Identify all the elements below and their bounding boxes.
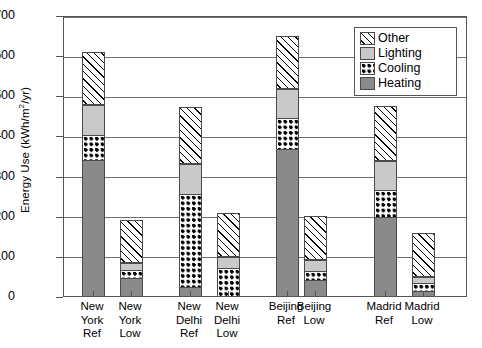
bar-segment-other	[179, 107, 202, 164]
legend-swatch-lighting	[360, 47, 375, 60]
bar-segment-heating	[374, 217, 397, 296]
x-axis-label-line: Low	[290, 314, 338, 328]
legend-label-cooling: Cooling	[378, 62, 420, 75]
x-axis-labels: NewYorkRefNewYorkLowNewDelhiRefNewDelhiL…	[63, 300, 467, 346]
legend-item-heating[interactable]: Heating	[360, 76, 451, 91]
x-axis-label-line: Low	[203, 327, 251, 341]
y-tick-label-300: 300	[0, 170, 15, 183]
bar-segment-lighting	[120, 263, 143, 270]
y-tick-mark-500	[56, 96, 63, 97]
bar-segment-other	[217, 213, 240, 257]
bar-segment-other	[304, 216, 327, 260]
bar-beijing-ref	[276, 36, 299, 296]
bar-new-york-ref	[82, 52, 105, 296]
y-tick-mark-700	[56, 16, 63, 17]
x-tick-mark	[131, 291, 132, 297]
x-axis-label-madrid-low: MadridLow	[398, 300, 446, 327]
bar-segment-other	[374, 106, 397, 161]
legend-item-lighting[interactable]: Lighting	[360, 46, 451, 61]
y-tick-label-700: 700	[0, 9, 15, 22]
bar-madrid-low	[412, 233, 435, 296]
bar-segment-lighting	[82, 105, 105, 136]
bar-segment-lighting	[179, 164, 202, 194]
y-tick-mark-600	[56, 56, 63, 57]
y-tick-label-600: 600	[0, 49, 15, 62]
bar-beijing-low	[304, 216, 327, 296]
bar-segment-heating	[82, 160, 105, 296]
y-tick-mark-200	[56, 217, 63, 218]
bar-segment-other	[276, 36, 299, 89]
x-axis-label-line: Madrid	[398, 300, 446, 314]
y-tick-label-500: 500	[0, 89, 15, 102]
bar-segment-cooling	[304, 271, 327, 280]
legend-label-heating: Heating	[378, 77, 421, 90]
x-axis-label-line: Low	[106, 327, 154, 341]
x-axis-label-new-delhi-low: NewDelhiLow	[203, 300, 251, 341]
x-axis-label-line: York	[106, 314, 154, 328]
legend-swatch-other	[360, 32, 375, 45]
y-tick-mark-0	[56, 297, 63, 298]
legend-label-other: Other	[378, 32, 409, 45]
legend-item-other[interactable]: Other	[360, 31, 451, 46]
bar-segment-other	[412, 233, 435, 276]
y-tick-label-100: 100	[0, 250, 15, 263]
x-axis-label-line: New	[106, 300, 154, 314]
legend-item-cooling[interactable]: Cooling	[360, 61, 451, 76]
x-axis-label-line: Low	[398, 314, 446, 328]
y-axis-title-exponent: 2	[17, 104, 26, 109]
y-axis-title: Energy Use (kWh/m2/yr)	[17, 70, 31, 230]
energy-use-stacked-bar-chart: Energy Use (kWh/m2/yr) 01002003004005006…	[0, 0, 482, 348]
x-tick-mark	[315, 291, 316, 297]
x-tick-mark	[287, 291, 288, 297]
chart-legend: OtherLightingCoolingHeating	[354, 27, 457, 96]
bar-segment-cooling	[276, 118, 299, 149]
y-tick-label-400: 400	[0, 129, 15, 142]
x-tick-mark	[228, 291, 229, 297]
bar-new-york-low	[120, 220, 143, 296]
x-axis-label-line: Delhi	[203, 314, 251, 328]
bar-segment-other	[120, 220, 143, 263]
x-tick-mark	[93, 291, 94, 297]
x-tick-mark	[423, 291, 424, 297]
bar-segment-other	[82, 52, 105, 104]
x-tick-mark	[385, 291, 386, 297]
y-tick-mark-400	[56, 136, 63, 137]
y-tick-mark-100	[56, 257, 63, 258]
y-axis-title-pre: Energy Use (kWh/m	[19, 108, 31, 213]
legend-label-lighting: Lighting	[378, 47, 422, 60]
x-axis-label-beijing-low: BeijingLow	[290, 300, 338, 327]
bar-segment-cooling	[82, 135, 105, 159]
bar-segment-lighting	[217, 257, 240, 267]
bar-segment-lighting	[304, 260, 327, 271]
x-axis-label-line: Beijing	[290, 300, 338, 314]
legend-swatch-cooling	[360, 62, 375, 75]
y-tick-mark-300	[56, 177, 63, 178]
bar-new-delhi-low	[217, 213, 240, 296]
bar-segment-lighting	[374, 161, 397, 190]
y-tick-label-200: 200	[0, 210, 15, 223]
legend-swatch-heating	[360, 77, 375, 90]
bar-new-delhi-ref	[179, 107, 202, 296]
y-axis-title-post: /yr)	[19, 87, 31, 104]
bar-segment-cooling	[120, 270, 143, 278]
bar-segment-lighting	[276, 89, 299, 118]
bar-segment-cooling	[374, 190, 397, 217]
bar-segment-heating	[276, 149, 299, 296]
x-tick-mark	[190, 291, 191, 297]
x-axis-label-line: New	[203, 300, 251, 314]
x-axis-label-new-york-low: NewYorkLow	[106, 300, 154, 341]
bar-madrid-ref	[374, 106, 397, 296]
y-tick-label-0: 0	[0, 290, 15, 303]
bar-segment-cooling	[412, 283, 435, 291]
bar-segment-cooling	[179, 194, 202, 288]
